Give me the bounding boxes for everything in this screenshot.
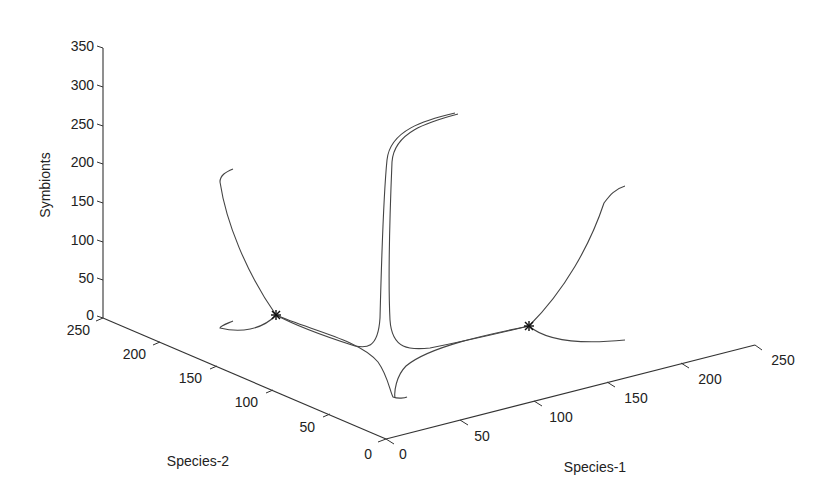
x-tick-label: 50 [474, 428, 490, 444]
trajectory-central-left [276, 113, 455, 347]
y-axis-title: Species-2 [167, 453, 229, 469]
trajectory-lower-right-dip [395, 326, 529, 398]
trajectories [220, 113, 625, 398]
x-axis-title: Species-1 [564, 459, 626, 475]
trajectory-left-upper [220, 169, 276, 315]
z-tick-label: 200 [71, 154, 95, 170]
z-axis-title: Symbionts [37, 152, 53, 217]
x-tick-label: 200 [698, 371, 722, 387]
z-tick-label: 350 [71, 38, 95, 54]
z-tick-label: 300 [71, 77, 95, 93]
trajectory-central-right [389, 114, 529, 349]
y-tick-label: 250 [67, 322, 91, 338]
z-axis: 350 300 250 200 150 100 50 0 Symbionts [37, 38, 103, 323]
y-tick-label: 100 [235, 394, 259, 410]
z-tick-label: 100 [71, 232, 95, 248]
y-tick-label: 0 [364, 446, 372, 462]
phase-space-plot: 350 300 250 200 150 100 50 0 Symbionts 2… [0, 0, 836, 497]
trajectory-left-lower [220, 315, 276, 330]
x-axis: 0 50 100 150 200 250 Species-1 [386, 345, 795, 475]
trajectory-lower-left-dip [276, 315, 407, 398]
trajectory-right-upper [529, 186, 625, 326]
x-tick-label: 250 [771, 352, 795, 368]
equilibrium-species-1 [524, 321, 534, 331]
equilibrium-species-2 [271, 310, 281, 320]
y-tick-label: 200 [123, 346, 147, 362]
z-tick-label: 250 [71, 116, 95, 132]
y-tick-label: 150 [179, 370, 203, 386]
y-tick-label: 50 [299, 419, 315, 435]
x-tick-label: 150 [624, 390, 648, 406]
z-tick-label: 150 [71, 193, 95, 209]
x-tick-label: 100 [549, 409, 573, 425]
trajectory-right-lower [529, 326, 625, 342]
z-tick-label: 0 [86, 307, 94, 323]
z-tick-label: 50 [78, 270, 94, 286]
x-tick-label: 0 [399, 446, 407, 462]
